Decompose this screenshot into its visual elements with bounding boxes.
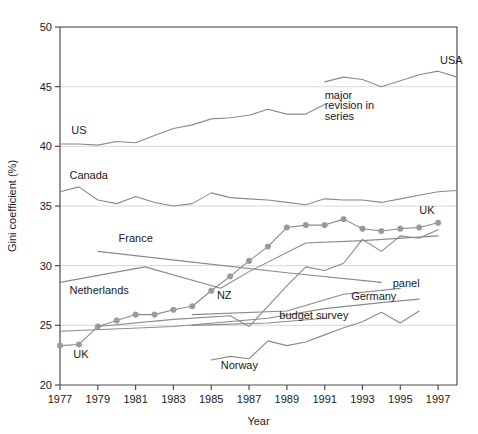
data-point xyxy=(435,220,441,226)
series-label-uk: UK xyxy=(419,204,435,216)
y-tick-label-45: 45 xyxy=(40,81,52,93)
series-usa xyxy=(325,71,457,87)
series-germany-budget-survey xyxy=(60,299,419,331)
data-point xyxy=(246,258,252,264)
gini-coefficient-line-chart: 2025303540455019771979198119831985198719… xyxy=(0,0,478,434)
data-series xyxy=(57,71,457,360)
chart-annotations: majorrevision inseries xyxy=(325,89,375,122)
series-label-norway: Norway xyxy=(221,359,259,371)
series-label-uk-secondary: UK xyxy=(73,348,89,360)
series-label-germany: Germany xyxy=(351,290,397,302)
y-tick-label-35: 35 xyxy=(40,200,52,212)
chart-canvas: 2025303540455019771979198119831985198719… xyxy=(0,0,478,434)
axis-ticks xyxy=(55,27,438,390)
data-point xyxy=(322,222,328,228)
x-tick-label-1991: 1991 xyxy=(312,393,336,405)
y-tick-label-30: 30 xyxy=(40,260,52,272)
series-us xyxy=(60,105,325,146)
series-label-nz: NZ xyxy=(217,289,232,301)
x-tick-label-1997: 1997 xyxy=(426,393,450,405)
series-label-usa: USA xyxy=(440,54,463,66)
x-tick-label-1985: 1985 xyxy=(199,393,223,405)
y-tick-label-50: 50 xyxy=(40,21,52,33)
y-tick-label-40: 40 xyxy=(40,140,52,152)
data-point xyxy=(152,312,158,318)
data-point xyxy=(114,318,120,324)
data-point xyxy=(284,225,290,231)
data-point xyxy=(303,222,309,228)
axis-tick-labels: 2025303540455019771979198119831985198719… xyxy=(40,21,451,405)
y-axis-title: Gini coefficient (%) xyxy=(6,160,18,252)
x-tick-label-1987: 1987 xyxy=(237,393,261,405)
data-point xyxy=(171,307,177,313)
series-label-canada: Canada xyxy=(69,169,108,181)
data-point xyxy=(208,288,214,294)
data-point xyxy=(341,216,347,222)
x-tick-label-1979: 1979 xyxy=(86,393,110,405)
series-label-germany-budget-survey: budget survey xyxy=(279,309,349,321)
annotation-line-3: series xyxy=(325,110,355,122)
data-point xyxy=(227,274,233,280)
y-tick-label-25: 25 xyxy=(40,319,52,331)
data-point xyxy=(416,225,422,231)
series-line xyxy=(325,71,457,87)
x-tick-label-1983: 1983 xyxy=(161,393,185,405)
series-canada xyxy=(60,187,457,206)
data-point xyxy=(190,303,196,309)
data-point xyxy=(397,226,403,232)
data-point xyxy=(265,244,271,250)
series-label-us: US xyxy=(71,124,86,136)
data-point xyxy=(57,343,63,349)
x-tick-label-1977: 1977 xyxy=(48,393,72,405)
x-tick-label-1981: 1981 xyxy=(123,393,147,405)
x-tick-label-1989: 1989 xyxy=(275,393,299,405)
x-tick-label-1995: 1995 xyxy=(388,393,412,405)
data-point xyxy=(76,342,82,348)
data-point xyxy=(379,228,385,234)
data-point xyxy=(133,312,139,318)
series-line xyxy=(60,105,325,146)
series-label-netherlands: Netherlands xyxy=(69,284,129,296)
series-label-germany-panel: panel xyxy=(393,277,420,289)
series-label-france: France xyxy=(119,232,153,244)
data-point xyxy=(360,226,366,232)
series-line xyxy=(60,299,419,331)
series-line xyxy=(60,187,457,206)
y-tick-label-20: 20 xyxy=(40,379,52,391)
x-axis-title: Year xyxy=(247,415,270,427)
x-tick-label-1993: 1993 xyxy=(350,393,374,405)
